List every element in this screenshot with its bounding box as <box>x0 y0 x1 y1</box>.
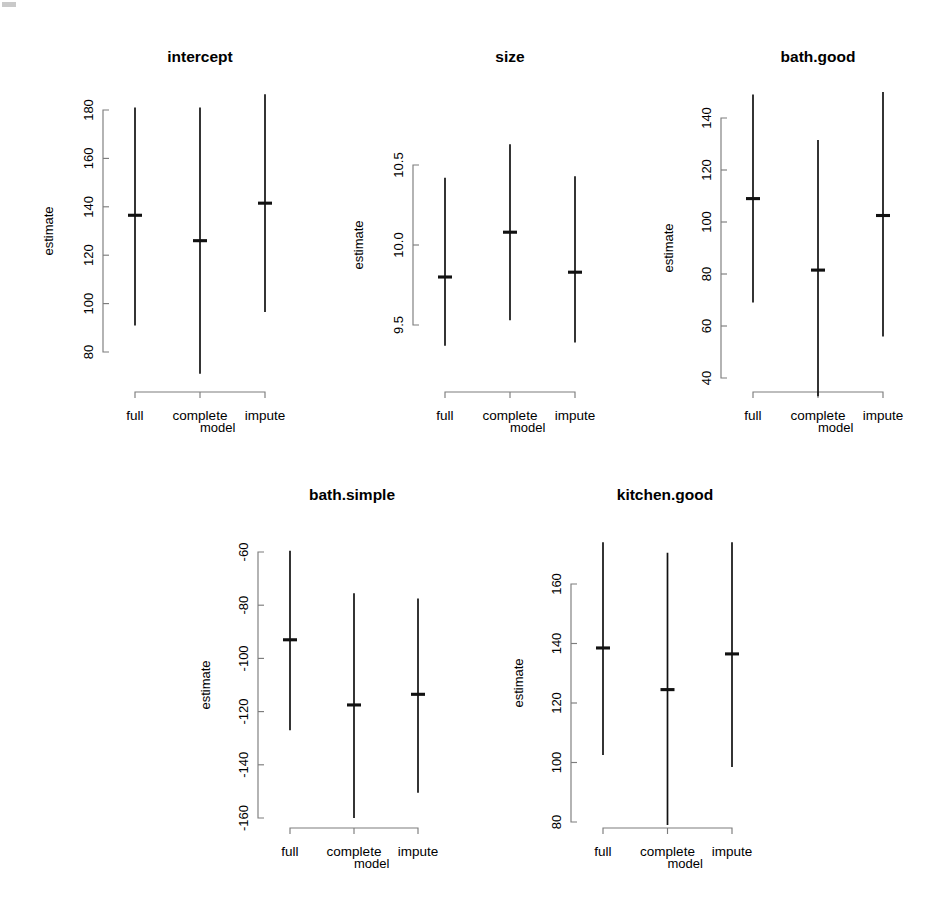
y-tick-label: -60 <box>236 543 251 562</box>
error-bar-complete <box>661 553 675 825</box>
y-tick-label: -140 <box>236 752 251 778</box>
y-tick-label: 160 <box>81 148 96 170</box>
x-tick-label-impute: impute <box>398 844 439 859</box>
error-bar-complete <box>811 140 825 396</box>
error-bar-full <box>596 542 610 755</box>
y-tick-label: -100 <box>236 645 251 671</box>
panel-bath.good: bath.good406080100120140estimatefullcomp… <box>661 48 904 435</box>
panel-title-kitchen.good: kitchen.good <box>617 486 713 503</box>
x-tick-label-full: full <box>436 408 453 423</box>
y-tick-label: -120 <box>236 699 251 725</box>
y-axis-title: estimate <box>351 220 366 269</box>
error-bar-impute <box>568 176 582 342</box>
x-tick-label-impute: impute <box>863 408 904 423</box>
y-tick-label: 120 <box>549 692 564 714</box>
panel-bath.simple: bath.simple-160-140-120-100-80-60estimat… <box>198 486 439 871</box>
x-tick-label-full: full <box>744 408 761 423</box>
x-axis-title: model <box>510 420 546 435</box>
y-tick-label: 180 <box>81 99 96 121</box>
y-axis-title: estimate <box>511 658 526 707</box>
scan-artifact <box>2 2 16 7</box>
error-bar-complete <box>193 108 207 374</box>
error-bar-full <box>283 551 297 731</box>
y-tick-label: 80 <box>699 267 714 281</box>
panel-kitchen.good: kitchen.good80100120140160estimatefullco… <box>511 486 753 871</box>
y-axis-title: estimate <box>661 223 676 272</box>
error-bar-impute <box>411 599 425 793</box>
x-axis-title: model <box>668 856 704 871</box>
error-bar-impute <box>258 94 272 312</box>
x-tick-label-full: full <box>281 844 298 859</box>
y-tick-label: -160 <box>236 805 251 831</box>
panel-title-intercept: intercept <box>167 48 232 65</box>
x-tick-label-impute: impute <box>245 408 286 423</box>
y-tick-label: 160 <box>549 573 564 595</box>
error-bar-full <box>746 95 760 303</box>
y-axis-title: estimate <box>41 206 56 255</box>
y-tick-label: 140 <box>81 196 96 218</box>
error-bar-figure: intercept80100120140160180estimatefullco… <box>0 0 936 915</box>
x-axis-title: model <box>200 420 236 435</box>
y-tick-label: 10.0 <box>391 232 406 257</box>
y-tick-label: 100 <box>549 752 564 774</box>
panel-size: size9.510.010.5estimatefullcompleteimput… <box>351 48 596 435</box>
panel-intercept: intercept80100120140160180estimatefullco… <box>41 48 286 435</box>
x-axis-title: model <box>818 420 854 435</box>
x-axis-title: model <box>354 856 390 871</box>
y-tick-label: 10.5 <box>391 152 406 177</box>
y-tick-label: 120 <box>699 159 714 181</box>
x-tick-label-full: full <box>126 408 143 423</box>
y-tick-label: -80 <box>236 596 251 615</box>
y-tick-label: 80 <box>549 815 564 829</box>
error-bar-impute <box>876 92 890 336</box>
y-tick-label: 140 <box>549 633 564 655</box>
y-tick-label: 9.5 <box>391 316 406 334</box>
error-bar-complete <box>503 144 517 320</box>
y-tick-label: 40 <box>699 371 714 385</box>
error-bar-full <box>438 178 452 346</box>
x-tick-label-impute: impute <box>712 844 753 859</box>
y-tick-label: 100 <box>699 211 714 233</box>
y-tick-label: 140 <box>699 107 714 129</box>
error-bar-complete <box>347 593 361 818</box>
x-tick-label-full: full <box>594 844 611 859</box>
y-tick-label: 60 <box>699 319 714 333</box>
panel-title-bath.good: bath.good <box>781 48 856 65</box>
error-bar-full <box>128 108 142 326</box>
x-tick-label-impute: impute <box>555 408 596 423</box>
y-tick-label: 120 <box>81 244 96 266</box>
panel-title-bath.simple: bath.simple <box>309 486 396 503</box>
error-bar-impute <box>725 542 739 767</box>
y-axis-title: estimate <box>198 660 213 709</box>
panel-title-size: size <box>495 48 525 65</box>
y-tick-label: 100 <box>81 293 96 315</box>
y-tick-label: 80 <box>81 345 96 359</box>
